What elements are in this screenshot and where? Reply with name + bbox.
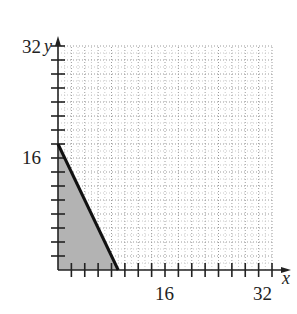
y-axis-label: y [42,36,52,56]
x-axis-label: x [281,268,290,288]
y-tick-label-32: 32 [22,36,41,57]
y-tick-label-16: 16 [22,147,41,168]
inequality-graph: y x 32 16 16 32 [0,0,297,314]
x-tick-label-32: 32 [253,283,272,304]
x-tick-label-16: 16 [155,283,174,304]
